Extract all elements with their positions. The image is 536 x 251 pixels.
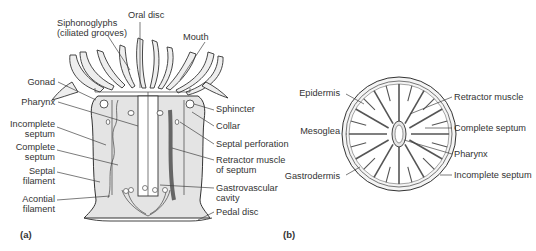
- label-collar: Collar: [216, 121, 240, 131]
- label-gastrovascular-cavity: Gastrovascular: [216, 183, 278, 193]
- label-complete-septum: Complete: [16, 142, 55, 152]
- label-mesoglea: Mesoglea: [300, 126, 341, 136]
- anemone-cross-section: [342, 77, 456, 191]
- label-pharynx-b: Pharynx: [454, 149, 488, 159]
- label-epidermis: Epidermis: [299, 88, 340, 98]
- label-pharynx: Pharynx: [21, 97, 55, 107]
- label-retractor-muscle: Retractor muscle: [454, 92, 523, 102]
- label-acontial-filament: Acontial: [22, 194, 55, 204]
- label-septal-filament-2: filament: [23, 176, 56, 186]
- label-siphonoglyphs-sub: (ciliated grooves): [57, 28, 127, 38]
- panel-label-a: (a): [20, 229, 32, 240]
- label-acontial-filament-2: filament: [23, 204, 56, 214]
- label-incomplete-septum-2: septum: [25, 129, 55, 139]
- label-septal-perforation: Septal perforation: [216, 139, 289, 149]
- label-gastrodermis: Gastrodermis: [285, 171, 341, 181]
- panel-label-b: (b): [283, 229, 295, 240]
- label-incomplete-septum-b: Incomplete septum: [454, 170, 532, 180]
- label-complete-septum-b: Complete septum: [454, 123, 526, 133]
- label-complete-septum-2: septum: [25, 152, 55, 162]
- label-siphonoglyphs: Siphonoglyphs: [57, 18, 118, 28]
- label-retractor-muscle-of-septum: Retractor muscle: [216, 155, 285, 165]
- label-retractor-muscle-of-septum-2: of septum: [216, 165, 257, 175]
- label-septal-filament: Septal: [29, 166, 55, 176]
- label-gonad: Gonad: [27, 77, 55, 87]
- label-oral-disc: Oral disc: [128, 10, 165, 20]
- label-pedal-disc: Pedal disc: [216, 207, 259, 217]
- label-incomplete-septum: Incomplete: [10, 119, 55, 129]
- label-mouth: Mouth: [183, 32, 209, 42]
- label-sphincter: Sphincter: [216, 104, 255, 114]
- label-gastrovascular-cavity-2: cavity: [216, 193, 240, 203]
- sea-anemone-diagram: Siphonoglyphs (ciliated grooves) Oral di…: [0, 0, 536, 251]
